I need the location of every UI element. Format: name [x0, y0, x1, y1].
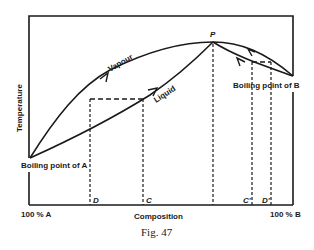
c-label: C: [146, 196, 152, 205]
x-left-label: 100 % A: [21, 210, 52, 219]
axes-frame: [29, 16, 293, 205]
phase-diagram: Vapour Liquid P Boiling point of A Boili…: [0, 0, 314, 250]
boiling-point-b-label: Boiling point of B: [233, 81, 300, 90]
liquid-curve-right: [213, 42, 293, 76]
liquid-label: Liquid: [152, 84, 177, 105]
boiling-point-a-label: Boiling point of A: [21, 161, 88, 170]
d-prime-label: D': [262, 196, 271, 205]
x-axis-label: Composition: [134, 212, 183, 221]
vapour-label: Vapour: [107, 52, 135, 73]
d-label: D: [93, 196, 99, 205]
figure-caption: Fig. 47: [141, 226, 173, 238]
y-axis-label: Temperature: [15, 84, 24, 132]
c-prime-label: C': [243, 196, 252, 205]
x-right-label: 100 % B: [270, 210, 301, 219]
peak-label: P: [210, 30, 216, 39]
